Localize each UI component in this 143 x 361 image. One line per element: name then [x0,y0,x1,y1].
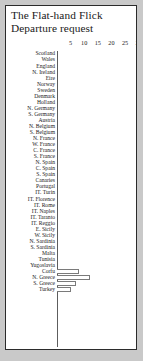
chart-title: The Flat-hand Flick Departure request [11,9,135,34]
bar-row: Turkey [6,287,137,293]
x-tick-5: 5 [69,39,72,47]
x-tick-10: 10 [81,39,87,47]
plot-area: 51015202530 ScotlandWalesEnglandN. Irela… [6,39,137,349]
chart-title-line-1: The Flat-hand Flick [11,9,135,22]
bar [57,275,90,280]
bar-rows: ScotlandWalesEnglandN. IrelandEireNorway… [6,51,137,293]
bar [57,287,71,292]
x-tick-20: 20 [108,39,114,47]
figure-panel: The Flat-hand Flick Departure request 51… [5,5,137,350]
bar [57,269,79,274]
category-label: Turkey [39,286,55,293]
chart-title-line-2: Departure request [11,22,135,35]
x-tick-30: 30 [136,39,138,47]
bar [57,281,76,286]
x-tick-15: 15 [95,39,101,47]
x-tick-25: 25 [122,39,128,47]
